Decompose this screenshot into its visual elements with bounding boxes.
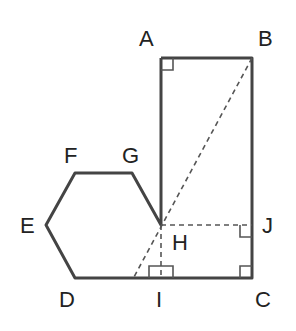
dashed-diagonal-b-h [134,58,252,277]
main-outline [46,58,252,278]
label-a: A [139,26,154,51]
label-f: F [64,143,77,168]
label-e: E [20,213,35,238]
label-c: C [255,287,271,312]
right-angle-mark-a [161,58,173,70]
label-g: G [122,143,139,168]
label-b: B [258,26,273,51]
label-d: D [59,287,75,312]
geometry-diagram: A B C D E F G H I J [0,0,296,331]
label-i: I [156,287,162,312]
right-angle-mark-c [240,266,252,278]
label-h: H [172,230,188,255]
label-j: J [262,213,273,238]
right-angle-mark-j [240,225,252,237]
